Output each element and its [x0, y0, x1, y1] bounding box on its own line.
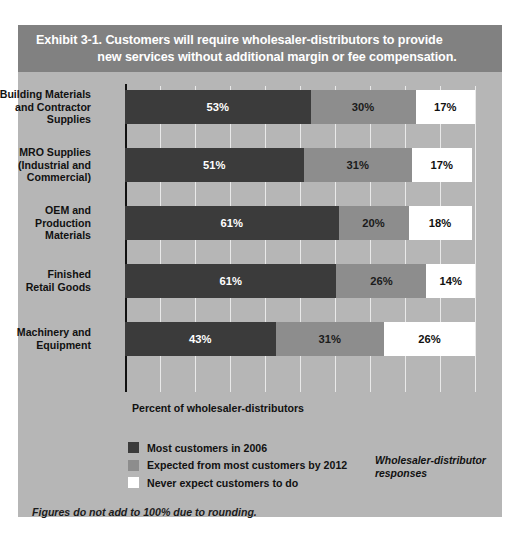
bar-row: 43%31%26%	[125, 322, 475, 356]
plot-area: 53%30%17%51%31%17%61%20%18%61%26%14%43%3…	[125, 86, 475, 386]
bar-value-label: 26%	[418, 333, 440, 345]
axis-tick	[265, 386, 266, 392]
title-line-1: Exhibit 3-1. Customers will require whol…	[32, 32, 488, 49]
legend-label: Expected from most customers by 2012	[147, 459, 347, 471]
legend-item: Expected from most customers by 2012	[128, 458, 347, 473]
bar-segment: 18%	[409, 206, 472, 240]
category-label-line: Production	[0, 217, 91, 230]
bar-value-label: 43%	[189, 333, 211, 345]
responses-note-line-2: responses	[375, 468, 427, 479]
category-label-line: Finished	[0, 268, 91, 281]
responses-note-line-1: Wholesaler-distributor	[375, 455, 486, 466]
axis-tick	[475, 386, 476, 392]
legend-swatch	[128, 460, 139, 471]
legend-label: Most customers in 2006	[147, 442, 267, 454]
bar-row: 53%30%17%	[125, 90, 475, 124]
category-label-line: Materials	[0, 229, 91, 242]
legend-swatch	[128, 442, 139, 453]
bar-value-label: 61%	[221, 217, 243, 229]
category-label: Building Materialsand ContractorSupplies	[0, 88, 91, 126]
category-label-line: OEM and	[0, 204, 91, 217]
bar-value-label: 61%	[219, 275, 241, 287]
bar-segment: 17%	[416, 90, 476, 124]
axis-tick	[300, 386, 301, 392]
category-label: MRO Supplies(Industrial andCommercial)	[0, 146, 91, 184]
category-label-line: Equipment	[0, 339, 91, 352]
bar-segment: 20%	[339, 206, 409, 240]
category-label: FinishedRetail Goods	[0, 268, 91, 293]
bar-value-label: 14%	[440, 275, 462, 287]
category-label-line: Supplies	[0, 113, 91, 126]
category-label-line: Machinery and	[0, 326, 91, 339]
category-label-line: (Industrial and	[0, 159, 91, 172]
title-line-2: new services without additional margin o…	[32, 49, 488, 66]
category-label-line: Building Materials	[0, 88, 91, 101]
chart-legend: Most customers in 2006Expected from most…	[128, 440, 347, 493]
bar-segment: 43%	[125, 322, 276, 356]
bar-value-label: 31%	[319, 333, 341, 345]
axis-tick	[405, 386, 406, 392]
bar-segment: 31%	[304, 148, 413, 182]
axis-tick	[440, 386, 441, 392]
responses-note: Wholesaler-distributor responses	[375, 455, 495, 480]
category-label: Machinery andEquipment	[0, 326, 91, 351]
exhibit-header-band: Exhibit 3-1. Customers will require whol…	[18, 25, 502, 72]
legend-item: Most customers in 2006	[128, 440, 347, 455]
bar-segment: 61%	[125, 206, 339, 240]
bar-segment: 14%	[426, 264, 475, 298]
bar-row: 61%26%14%	[125, 264, 475, 298]
bar-segment: 61%	[125, 264, 336, 298]
axis-tick	[160, 386, 161, 392]
gridline	[475, 86, 476, 386]
axis-tick	[370, 386, 371, 392]
bar-value-label: 26%	[370, 275, 392, 287]
bar-segment: 26%	[336, 264, 426, 298]
bar-segment: 31%	[276, 322, 385, 356]
bar-row: 51%31%17%	[125, 148, 475, 182]
bar-segment: 26%	[384, 322, 475, 356]
bar-value-label: 17%	[434, 101, 456, 113]
bar-value-label: 53%	[207, 101, 229, 113]
footnote: Figures do not add to 100% due to roundi…	[32, 506, 257, 518]
category-label-line: and Contractor	[0, 101, 91, 114]
legend-label: Never expect customers to do	[147, 477, 298, 489]
page-title: Exhibit 3-1. Customers will require whol…	[32, 32, 488, 65]
category-label: OEM andProductionMaterials	[0, 204, 91, 242]
category-label-line: MRO Supplies	[0, 146, 91, 159]
bar-value-label: 18%	[429, 217, 451, 229]
bar-value-label: 51%	[203, 159, 225, 171]
bar-segment: 53%	[125, 90, 311, 124]
axis-tick	[230, 386, 231, 392]
legend-swatch	[128, 477, 139, 488]
bar-segment: 51%	[125, 148, 304, 182]
axis-tick	[195, 386, 196, 392]
axis-tick	[335, 386, 336, 392]
x-axis-label: Percent of wholesaler-distributors	[132, 402, 304, 414]
bar-value-label: 17%	[431, 159, 453, 171]
bar-value-label: 31%	[347, 159, 369, 171]
bar-segment: 17%	[412, 148, 472, 182]
chart-body: 53%30%17%51%31%17%61%20%18%61%26%14%43%3…	[18, 72, 502, 517]
legend-item: Never expect customers to do	[128, 475, 347, 490]
bar-value-label: 30%	[352, 101, 374, 113]
bar-value-label: 20%	[362, 217, 384, 229]
bar-segment: 30%	[311, 90, 416, 124]
category-label-line: Retail Goods	[0, 281, 91, 294]
exhibit-card: Exhibit 3-1. Customers will require whol…	[18, 25, 502, 517]
category-label-line: Commercial)	[0, 171, 91, 184]
bar-row: 61%20%18%	[125, 206, 475, 240]
